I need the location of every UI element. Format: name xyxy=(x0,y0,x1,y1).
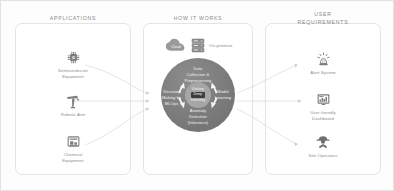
diagram-canvas: APPLICATIONS HOW IT WORKS USER REQUIREME… xyxy=(0,0,394,191)
req-item-alert-system: Alert System xyxy=(292,51,354,76)
cycle-segment-data-collection: Data Collection & Preprocessing xyxy=(170,66,226,84)
header-user-requirements-line2: REQUIREMENTS xyxy=(265,18,381,26)
hub-line2: Deep xyxy=(191,92,205,98)
label-line2: Equipment xyxy=(42,74,104,80)
cycle-segment-decision-making: Decision Making by MLOps xyxy=(158,89,185,107)
robotic-arm-icon xyxy=(42,93,104,110)
app-item-robotic-arm: Robotic Arm xyxy=(42,93,104,118)
req-item-dashboard-label: User-friendly Dashboard xyxy=(292,110,354,123)
hub-line3: Learning xyxy=(191,98,205,102)
header-applications: APPLICATIONS xyxy=(15,14,131,22)
alert-beacon-icon xyxy=(292,51,354,68)
segment-line2: Learning xyxy=(210,95,236,101)
header-how-it-works: HOW IT WORKS xyxy=(143,14,253,22)
app-item-chemical-label: Chemical Equipment xyxy=(42,152,104,165)
req-item-dashboard: User-friendly Dashboard xyxy=(292,91,354,122)
dashboard-icon xyxy=(292,91,354,108)
label-line1: Robotic Arm xyxy=(42,112,104,118)
how-it-works-cycle: Data Collection & Preprocessing Model Le… xyxy=(161,58,235,132)
app-item-semiconductor: Semiconductor Equipment xyxy=(42,49,104,80)
on-premise-label: On-premise xyxy=(209,43,232,48)
req-item-site-operators: Site Operators xyxy=(292,134,354,159)
segment-line3: MLOps xyxy=(158,101,185,107)
cycle-segment-model-learning: Model Learning xyxy=(210,89,236,101)
header-user-requirements: USER REQUIREMENTS xyxy=(265,10,381,26)
app-item-chemical: Chemical Equipment xyxy=(42,133,104,164)
cloud-label: Cloud xyxy=(165,45,187,49)
infrastructure-row: Cloud On-premise xyxy=(165,37,249,54)
cycle-segment-anomaly-detection: Anomaly Detection (Inference) xyxy=(170,108,226,126)
microchip-icon xyxy=(42,49,104,66)
label-line1: Alert System xyxy=(292,70,354,76)
label-line2: Dashboard xyxy=(292,116,354,122)
hub-line1: Unitary xyxy=(192,87,204,91)
cloud-icon: Cloud xyxy=(165,38,187,53)
cycle-hub: Unitary Deep Learning xyxy=(185,82,211,108)
header-user-requirements-line1: USER xyxy=(265,10,381,18)
label-line2: Equipment xyxy=(42,158,104,164)
req-item-alert-system-label: Alert System xyxy=(292,70,354,76)
server-rack-icon xyxy=(191,38,205,53)
label-line1: Site Operators xyxy=(292,153,354,159)
req-item-site-operators-label: Site Operators xyxy=(292,153,354,159)
cycle-hub-text: Unitary Deep Learning xyxy=(191,87,205,104)
operator-icon xyxy=(292,134,354,151)
segment-line3: (Inference) xyxy=(170,120,226,126)
chemical-equipment-icon xyxy=(42,133,104,150)
app-item-robotic-arm-label: Robotic Arm xyxy=(42,112,104,118)
app-item-semiconductor-label: Semiconductor Equipment xyxy=(42,68,104,81)
